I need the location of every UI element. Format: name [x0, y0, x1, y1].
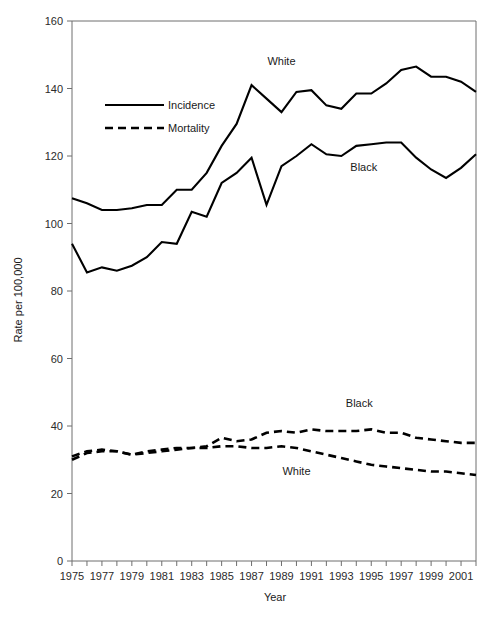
line-chart-svg: 020406080100120140160 197519771979198119… [0, 0, 498, 623]
legend-label-incidence: Incidence [168, 99, 215, 111]
y-axis-tick-labels: 020406080100120140160 [45, 15, 63, 567]
series-annotation-black-incidence: Black [350, 161, 377, 173]
x-tick-label: 1977 [90, 570, 114, 582]
x-axis-title: Year [264, 591, 287, 603]
x-tick-label: 1981 [150, 570, 174, 582]
y-tick-label: 100 [45, 218, 63, 230]
series-line-black-mortality [72, 429, 476, 456]
x-tick-label: 1991 [299, 570, 323, 582]
y-tick-label: 140 [45, 83, 63, 95]
x-tick-label: 1989 [269, 570, 293, 582]
y-tick-label: 120 [45, 150, 63, 162]
series-annotation-black-mortality: Black [346, 397, 373, 409]
series-annotations: WhiteBlackBlackWhite [267, 55, 377, 477]
chart-container: 020406080100120140160 197519771979198119… [0, 0, 498, 623]
y-axis-title: Rate per 100,000 [12, 257, 24, 342]
x-tick-label: 1975 [60, 570, 84, 582]
y-tick-label: 160 [45, 15, 63, 27]
x-tick-label: 1999 [419, 570, 443, 582]
legend-label-mortality: Mortality [168, 122, 210, 134]
y-tick-label: 40 [51, 420, 63, 432]
x-tick-label: 1985 [209, 570, 233, 582]
chart-legend: Incidence Mortality [105, 99, 215, 134]
x-tick-label: 1995 [359, 570, 383, 582]
y-tick-label: 0 [57, 555, 63, 567]
x-tick-label: 2001 [449, 570, 473, 582]
series-line-white-incidence [72, 67, 476, 210]
series-line-white-mortality [72, 446, 476, 475]
series-annotation-white-incidence: White [267, 55, 295, 67]
x-tick-label: 1997 [389, 570, 413, 582]
x-axis-tick-labels: 1975197719791981198319851987198919911993… [60, 570, 474, 582]
x-tick-label: 1983 [179, 570, 203, 582]
x-axis-ticks [72, 561, 476, 566]
series-annotation-white-mortality: White [282, 465, 310, 477]
y-tick-label: 80 [51, 285, 63, 297]
x-tick-label: 1979 [120, 570, 144, 582]
y-axis-ticks [67, 21, 72, 561]
plot-frame [72, 21, 476, 561]
x-tick-label: 1987 [239, 570, 263, 582]
x-tick-label: 1993 [329, 570, 353, 582]
y-tick-label: 20 [51, 488, 63, 500]
y-tick-label: 60 [51, 353, 63, 365]
